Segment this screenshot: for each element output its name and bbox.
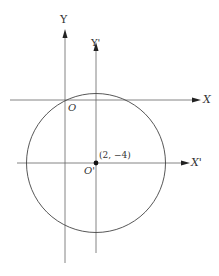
center-point-label: (2, −4) [99,151,131,160]
diagram-svg [0,0,219,276]
x-axis-arrow-icon [192,98,201,103]
y-axis-label: Y [60,14,67,25]
x-prime-axis-arrow-icon [181,161,190,166]
origin-label: O [68,103,76,113]
y-axis-arrow-icon [63,29,68,38]
y-prime-axis-label: Y' [91,38,100,48]
new-origin-label: O' [84,166,95,176]
diagram-canvas: Y Y' X X' O O' (2, −4) [0,0,219,276]
x-axis-label: X [203,94,211,105]
x-prime-axis-label: X' [191,157,202,168]
